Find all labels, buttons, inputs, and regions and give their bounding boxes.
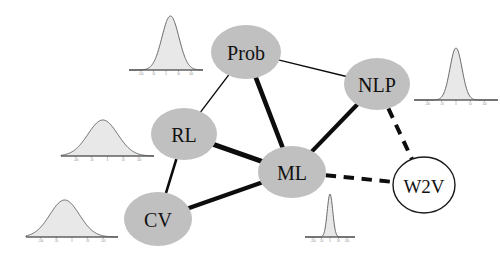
node-label-nlp: NLP — [358, 74, 396, 96]
edge-rl-ml — [214, 145, 261, 162]
axis-tick-label: -50 — [320, 239, 324, 243]
node-ml[interactable]: ML — [258, 146, 326, 198]
distribution-dist-top-left: -100-50050100 — [129, 16, 203, 76]
edge-prob-nlp — [279, 60, 345, 76]
node-label-rl: RL — [171, 124, 197, 146]
edge-rl-cv — [166, 159, 176, 192]
axis-tick-label: 0 — [329, 239, 331, 243]
axis-tick-label: -100 — [425, 102, 431, 106]
axis-tick-label: 100 — [137, 158, 142, 162]
distribution-curve — [414, 48, 498, 100]
node-nlp[interactable]: NLP — [344, 58, 410, 110]
axis-tick-label: 0 — [107, 158, 109, 162]
distribution-dist-right: -100-50050100 — [414, 48, 498, 106]
distribution-dist-bottom-center: -100-50050100 — [305, 194, 355, 243]
node-label-w2v: W2V — [403, 176, 444, 197]
axis-tick-label: 50 — [177, 72, 180, 76]
axis-tick-label: -100 — [38, 239, 44, 243]
edge-cv-ml — [189, 183, 261, 208]
axis-tick-label: 50 — [337, 239, 340, 243]
node-w2v[interactable]: W2V — [393, 157, 455, 213]
node-prob[interactable]: Prob — [211, 25, 281, 79]
axis-tick-label: 100 — [189, 72, 194, 76]
node-label-ml: ML — [277, 162, 307, 184]
node-cv[interactable]: CV — [124, 192, 192, 246]
axis-tick-label: -100 — [138, 72, 144, 76]
axis-tick-label: 0 — [165, 72, 167, 76]
distribution-curve — [305, 194, 355, 237]
axis-tick-label: 0 — [71, 239, 73, 243]
figure-canvas: -100-50050100-100-50050100-100-50050100-… — [0, 0, 500, 260]
axis-tick-label: 50 — [122, 158, 125, 162]
edge-ml-w2v — [326, 175, 393, 182]
axis-tick-label: -50 — [440, 102, 444, 106]
distribution-curve — [129, 16, 203, 70]
axis-tick-label: 100 — [345, 239, 350, 243]
axis-tick-label: 100 — [482, 102, 487, 106]
axis-tick-label: -100 — [73, 158, 79, 162]
axis-tick-label: -100 — [310, 239, 316, 243]
distribution-curve — [26, 200, 118, 237]
distribution-dist-mid-left: -100-50050100 — [61, 120, 154, 162]
axis-tick-label: -50 — [54, 239, 58, 243]
distribution-dist-bottom-left: -100-50050100 — [26, 200, 118, 243]
axis-tick-label: 0 — [455, 102, 457, 106]
edge-prob-ml — [256, 78, 283, 147]
axis-tick-label: 50 — [469, 102, 472, 106]
distribution-curve — [61, 120, 154, 156]
node-label-cv: CV — [144, 209, 172, 231]
node-label-prob: Prob — [227, 42, 265, 64]
axis-tick-label: -50 — [152, 72, 156, 76]
axis-tick-label: 50 — [86, 239, 89, 243]
edge-prob-rl — [201, 75, 228, 111]
node-rl[interactable]: RL — [151, 108, 217, 160]
edge-ml-nlp — [312, 105, 357, 151]
graph-svg: -100-50050100-100-50050100-100-50050100-… — [0, 0, 500, 260]
axis-tick-label: -50 — [90, 158, 94, 162]
edge-nlp-w2v — [388, 108, 412, 159]
axis-tick-label: 100 — [101, 239, 106, 243]
